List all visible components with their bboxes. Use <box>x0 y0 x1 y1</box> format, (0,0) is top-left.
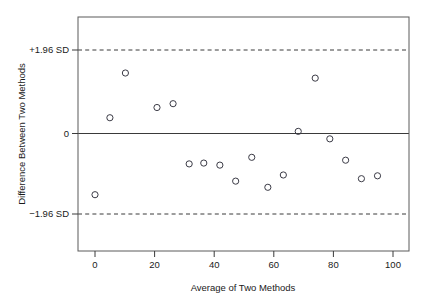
x-tick-label-0: 0 <box>92 259 97 270</box>
x-tick-label-80: 80 <box>328 259 339 270</box>
y-tick-label-upper: +1.96 SD <box>29 44 69 55</box>
x-tick-label-100: 100 <box>385 259 401 270</box>
y-tick-label-lower: −1.96 SD <box>29 208 69 219</box>
bland-altman-plot-figure: +1.96 SD 0 −1.96 SD 0 20 40 60 80 100 Av… <box>0 0 424 302</box>
plot-canvas: +1.96 SD 0 −1.96 SD 0 20 40 60 80 100 Av… <box>0 0 424 302</box>
x-tick-label-40: 40 <box>209 259 220 270</box>
x-axis-title: Average of Two Methods <box>191 282 296 293</box>
y-axis-title: Difference Between Two Methods <box>16 63 27 205</box>
x-tick-label-20: 20 <box>149 259 160 270</box>
y-tick-label-zero: 0 <box>64 128 69 139</box>
x-tick-label-60: 60 <box>269 259 280 270</box>
